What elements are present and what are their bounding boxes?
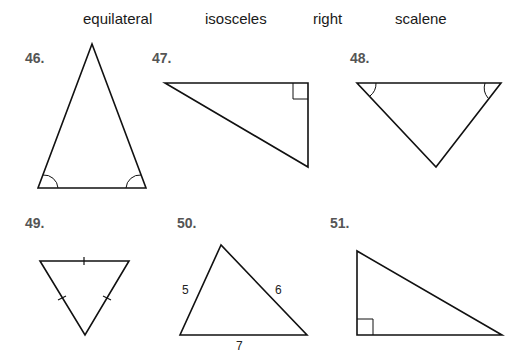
- triangle-48: [357, 83, 501, 167]
- triangles-figure: [0, 0, 520, 360]
- side-label-5: 5: [182, 283, 189, 297]
- triangle-47: [165, 83, 308, 167]
- side-label-7: 7: [236, 339, 243, 353]
- triangle-49: [40, 257, 129, 335]
- triangle-50: [180, 245, 307, 335]
- triangle-46: [38, 44, 146, 188]
- side-label-6: 6: [275, 283, 282, 297]
- triangle-51: [357, 251, 502, 335]
